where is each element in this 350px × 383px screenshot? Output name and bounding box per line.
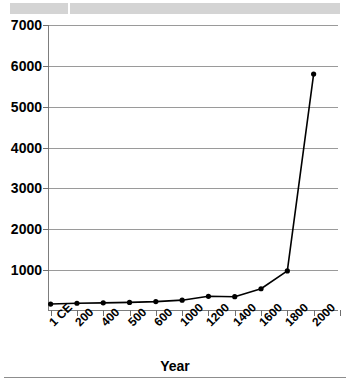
data-point (180, 298, 185, 303)
data-point (101, 300, 106, 305)
y-tick-label: 3000 (0, 181, 42, 195)
y-tick-label: 2000 (0, 222, 42, 236)
data-point (258, 286, 263, 291)
data-point (285, 268, 290, 273)
x-tick-mark (340, 310, 341, 316)
y-tick-label: 4000 (0, 141, 42, 155)
series-markers (48, 71, 316, 306)
chart-screenshot: 7000600050004000300020001000 1 CE2004005… (0, 0, 350, 383)
data-point (206, 294, 211, 299)
series-line (51, 74, 314, 304)
data-series (48, 25, 339, 311)
data-point (74, 301, 79, 306)
data-point (48, 301, 53, 306)
bottom-rule (4, 377, 346, 378)
data-point (232, 294, 237, 299)
y-tick-label: 7000 (0, 18, 42, 32)
x-axis-title: Year (0, 358, 350, 374)
header-strip (10, 3, 340, 14)
data-point (153, 299, 158, 304)
data-point (311, 71, 316, 76)
header-cell-left (10, 3, 68, 14)
header-cell-right (70, 3, 340, 14)
y-tick-label: 6000 (0, 59, 42, 73)
data-point (127, 300, 132, 305)
y-tick-label: 1000 (0, 263, 42, 277)
y-tick-label: 5000 (0, 100, 42, 114)
